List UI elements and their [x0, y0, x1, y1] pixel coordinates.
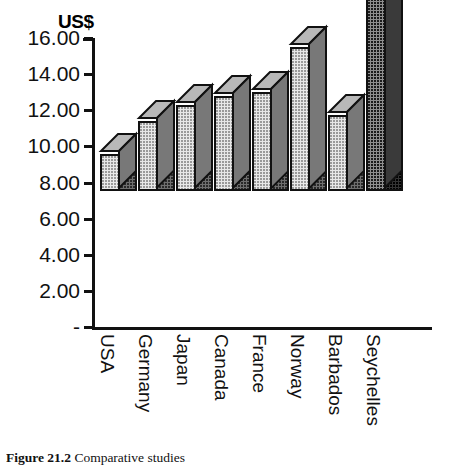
bar-seychelles	[366, 0, 403, 191]
bar-right-face	[233, 76, 250, 188]
y-axis-tick-label: -	[2, 316, 80, 337]
figure-caption: Figure 21.2 Comparative studies	[6, 450, 446, 466]
category-label-france: France	[250, 334, 269, 393]
category-label-usa: USA	[98, 334, 117, 373]
y-axis-tick-label: 12.00	[2, 99, 80, 120]
plot-area: -2.004.006.008.0010.0012.0014.0016.00 US…	[0, 0, 451, 466]
bar-japan	[176, 88, 213, 191]
y-axis-tick-label: 6.00	[2, 208, 80, 229]
bar-right-face	[347, 95, 364, 188]
bar-front-face	[328, 115, 348, 191]
y-axis-tick-label: 8.00	[2, 172, 80, 193]
y-axis-tick-label: 4.00	[2, 244, 80, 265]
category-label-germany: Germany	[136, 334, 155, 412]
category-label-seychelles: Seychelles	[364, 334, 383, 426]
bar-usa	[100, 137, 137, 191]
bar-right-face	[309, 27, 326, 189]
bar-canada	[214, 79, 251, 191]
y-axis-tick-label: 16.00	[2, 27, 80, 48]
category-label-japan: Japan	[174, 334, 193, 386]
bar-front-face	[366, 0, 386, 191]
y-axis-tick-label: 14.00	[2, 63, 80, 84]
y-axis-tick-label: 10.00	[2, 135, 80, 156]
bar-front-face	[138, 121, 158, 191]
y-axis-tick-label: 2.00	[2, 280, 80, 301]
bar-front-face	[176, 105, 196, 191]
bar-front-face	[290, 47, 310, 192]
category-label-norway: Norway	[288, 334, 307, 398]
category-label-canada: Canada	[212, 334, 231, 401]
category-label-barbados: Barbados	[326, 334, 345, 415]
bar-france	[252, 75, 289, 191]
y-axis-labels: -2.004.006.008.0010.0012.0014.0016.00	[0, 0, 80, 466]
bar-front-face	[100, 154, 120, 191]
bar-right-face	[195, 85, 212, 188]
bar-germany	[138, 104, 175, 191]
bar-front-face	[214, 96, 234, 191]
bar-front-face	[252, 92, 272, 191]
x-axis-category-labels: USAGermanyJapanCanadaFranceNorwayBarbado…	[92, 330, 437, 440]
bar-barbados	[328, 98, 365, 191]
bar-right-face	[385, 0, 402, 188]
bar-norway	[290, 30, 327, 192]
bar-right-face	[271, 72, 288, 188]
caption-number: Figure 21.2	[6, 450, 71, 465]
figure-container: US$ -2.004.006.008.0010.0012.0014.0016.0…	[0, 0, 451, 466]
bar-group	[92, 0, 437, 330]
caption-body: Comparative studies	[74, 450, 185, 465]
